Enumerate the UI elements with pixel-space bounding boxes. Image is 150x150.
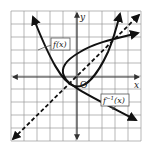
label-f: f(x): [52, 40, 67, 49]
y-axis-label: y: [79, 12, 86, 22]
function-inverse-graph: x y O f(x) f−1(x): [0, 0, 150, 150]
label-f-inverse: f−1(x): [102, 95, 125, 105]
origin-label: O: [80, 80, 87, 90]
grid: [11, 11, 141, 141]
x-axis-label: x: [134, 80, 139, 90]
